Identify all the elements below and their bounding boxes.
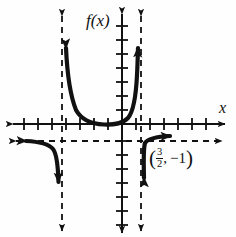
x-axis-label: x [219,100,226,116]
point-fraction: 3 2 [156,147,163,169]
point-coordinate-label: ( 3 2 , −1 ) [149,147,193,169]
fraction-denominator: 2 [156,159,163,170]
point-y-value: −1 [170,151,186,166]
function-axis-label: f(x) [86,12,110,29]
curve-middle-u-branch [66,48,138,125]
point-close-paren: ) [186,148,193,169]
curve-lower-left-branch [26,141,59,182]
fraction-numerator: 3 [156,147,163,158]
graph-canvas [0,0,236,237]
point-separator: , [163,151,167,166]
function-graph-figure: f(x) x ( 3 2 , −1 ) [0,0,236,237]
point-open-paren: ( [149,148,156,169]
